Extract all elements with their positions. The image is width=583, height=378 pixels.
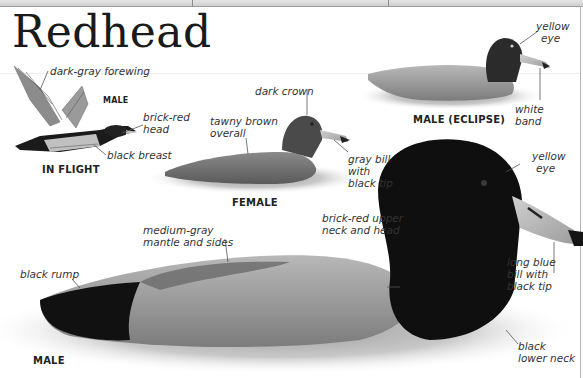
label-dark-gray-forewing: dark-gray forewing (50, 65, 150, 78)
label-gray-bill-2: with (348, 165, 370, 178)
caption-female: FEMALE (232, 197, 278, 208)
label-black-lower-neck-1: black (518, 340, 546, 353)
in-flight-duck (14, 66, 138, 152)
label-brick-red-head-2: head (143, 123, 169, 136)
label-upper-neck-2: neck and head (322, 224, 400, 237)
label-black-breast: black breast (107, 149, 172, 162)
label-gray-bill-3: black tip (348, 177, 393, 190)
label-upper-neck-1: brick-red upper (322, 212, 403, 225)
caption-male-eclipse: MALE (ECLIPSE) (413, 114, 505, 125)
caption-in-flight-male: MALE (103, 96, 129, 105)
label-gray-bill-1: gray bill (348, 153, 390, 166)
label-tawny-brown-1: tawny brown (210, 115, 278, 128)
label-eclipse-yellow-eye-2: eye (541, 32, 560, 45)
label-dark-crown: dark crown (255, 85, 314, 98)
label-tawny-brown-2: overall (210, 127, 246, 140)
label-long-blue-bill-2: bill with (507, 268, 548, 281)
label-black-rump: black rump (20, 268, 79, 281)
label-medium-gray-2: mantle and sides (143, 236, 233, 249)
label-white-band-2: band (515, 115, 541, 128)
label-male-yellow-eye-1: yellow (532, 150, 566, 163)
label-brick-red-head-1: brick-red (143, 111, 190, 124)
caption-in-flight: IN FLIGHT (42, 164, 100, 175)
label-black-lower-neck-2: lower neck (518, 352, 575, 365)
label-white-band-1: white (515, 103, 544, 116)
label-long-blue-bill-1: long blue (507, 256, 556, 269)
duck-illustrations (0, 0, 583, 378)
male-eclipse-duck (355, 38, 550, 110)
label-male-yellow-eye-2: eye (536, 162, 555, 175)
label-long-blue-bill-3: black tip (507, 280, 552, 293)
label-eclipse-yellow-eye-1: yellow (536, 20, 570, 33)
female-duck (145, 116, 365, 194)
caption-male: MALE (33, 355, 65, 366)
label-medium-gray-1: medium-gray (143, 224, 214, 237)
